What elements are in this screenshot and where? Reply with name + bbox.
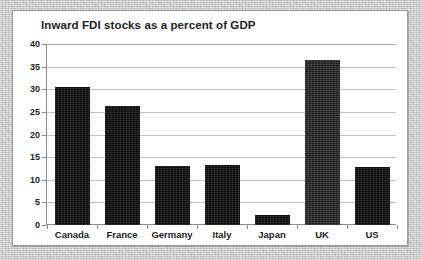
- bar-italy: [205, 165, 240, 225]
- y-tick-label: 10: [30, 175, 40, 185]
- y-tick-mark: [42, 135, 46, 136]
- y-tick-mark: [42, 180, 46, 181]
- x-tick-label-uk: UK: [315, 229, 329, 240]
- y-tick-mark: [42, 44, 46, 45]
- figure-root: Inward FDI stocks as a percent of GDP 05…: [0, 0, 422, 260]
- bar-france: [105, 106, 140, 225]
- x-axis-tick-labels: CanadaFranceGermanyItalyJapanUKUS: [47, 229, 396, 245]
- y-tick-mark: [42, 89, 46, 90]
- y-tick-label: 25: [30, 107, 40, 117]
- y-tick-label: 5: [35, 197, 40, 207]
- y-tick-label: 30: [30, 84, 40, 94]
- x-tick-label-france: France: [106, 229, 137, 240]
- x-tick-label-us: US: [365, 229, 378, 240]
- bar-us: [355, 167, 390, 225]
- chart-title: Inward FDI stocks as a percent of GDP: [41, 19, 256, 31]
- y-tick-mark: [42, 112, 46, 113]
- y-tick-mark: [42, 202, 46, 203]
- y-tick-label: 15: [30, 152, 40, 162]
- bar-canada: [55, 87, 90, 225]
- y-tick-mark: [42, 157, 46, 158]
- x-tick-mark: [397, 225, 398, 229]
- x-tick-label-germany: Germany: [151, 229, 192, 240]
- bar-uk: [305, 60, 340, 225]
- y-tick-label: 0: [35, 220, 40, 230]
- y-tick-mark: [42, 67, 46, 68]
- chart-card: Inward FDI stocks as a percent of GDP 05…: [12, 10, 408, 246]
- y-tick-mark: [42, 225, 46, 226]
- y-tick-label: 40: [30, 39, 40, 49]
- y-axis-tick-labels: 0510152025303540: [13, 44, 40, 225]
- y-tick-label: 20: [30, 130, 40, 140]
- y-tick-label: 35: [30, 62, 40, 72]
- bar-japan: [255, 215, 290, 225]
- x-tick-label-italy: Italy: [212, 229, 231, 240]
- bars-layer: [47, 44, 396, 225]
- x-tick-label-canada: Canada: [55, 229, 89, 240]
- x-tick-label-japan: Japan: [258, 229, 285, 240]
- bar-germany: [155, 166, 190, 225]
